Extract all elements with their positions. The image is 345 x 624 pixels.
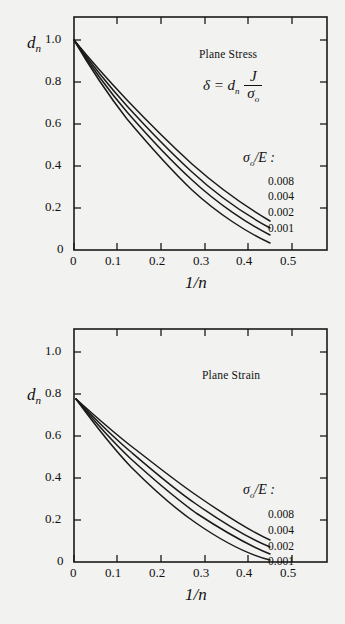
y-tick-label: 0.6 xyxy=(45,427,61,443)
curve-0.001 xyxy=(76,399,270,560)
x-tick-label: 0 xyxy=(70,565,77,581)
formula-delta: δ = dn J σo xyxy=(203,69,263,104)
y-tick-label: 0.2 xyxy=(45,199,61,215)
legend-item: 0.008 xyxy=(268,175,294,187)
x-tick-label: 0.3 xyxy=(193,253,209,269)
legend-item: 0.001 xyxy=(268,222,294,234)
x-tick-label: 0.5 xyxy=(280,253,296,269)
y-tick-label: 0 xyxy=(57,241,64,257)
y-tick-label: 0.8 xyxy=(45,385,61,401)
legend-title: σo/E : xyxy=(243,150,275,168)
formula-denominator: σo xyxy=(244,85,262,104)
panel-title: Plane Strain xyxy=(202,369,260,381)
legend-title: σo/E : xyxy=(243,482,275,500)
legend-item: 0.004 xyxy=(268,190,294,202)
formula-equals: = xyxy=(214,77,224,93)
x-axis-label: 1/n xyxy=(185,273,207,293)
x-tick-label: 0.5 xyxy=(280,565,296,581)
x-tick-label: 0.2 xyxy=(149,565,165,581)
y-tick-label: 1.0 xyxy=(45,31,61,47)
formula-fraction: J σo xyxy=(244,69,262,104)
y-tick-label: 0.4 xyxy=(45,469,61,485)
curve-0.008 xyxy=(74,40,270,221)
y-tick-label: 1.0 xyxy=(45,343,61,359)
panel-title: Plane Stress xyxy=(199,48,257,60)
x-axis-label: 1/n xyxy=(185,585,207,605)
x-tick-label: 0.4 xyxy=(236,565,252,581)
y-axis-label: dn xyxy=(27,33,41,54)
x-tick-label: 0.1 xyxy=(105,565,121,581)
legend-item: 0.002 xyxy=(268,206,294,218)
chart-plane-stress: dn 1.0 0.8 0.6 0.4 0.2 0 0 0.1 0.2 0.3 0… xyxy=(0,0,345,312)
formula-lhs: δ xyxy=(203,77,210,93)
y-tick-label: 0.2 xyxy=(45,511,61,527)
x-tick-label: 0.2 xyxy=(149,253,165,269)
x-tick-label: 0.4 xyxy=(236,253,252,269)
curve-group xyxy=(76,399,270,560)
formula-numerator: J xyxy=(244,69,262,85)
x-tick-label: 0 xyxy=(70,253,77,269)
y-tick-label: 0.4 xyxy=(45,157,61,173)
legend-item: 0.008 xyxy=(268,508,294,520)
chart-plane-strain: dn 1.0 0.8 0.6 0.4 0.2 0 0 0.1 0.2 0.3 0… xyxy=(0,312,345,624)
formula-coef: dn xyxy=(228,77,240,93)
curve-0.008 xyxy=(76,399,270,540)
x-tick-label: 0.1 xyxy=(105,253,121,269)
y-axis-label: dn xyxy=(27,385,41,406)
legend-item: 0.004 xyxy=(268,524,294,536)
curve-0.002 xyxy=(76,399,270,554)
y-tick-label: 0.6 xyxy=(45,115,61,131)
x-tick-label: 0.3 xyxy=(193,565,209,581)
legend-item: 0.002 xyxy=(268,540,294,552)
y-tick-label: 0 xyxy=(57,553,64,569)
y-tick-label: 0.8 xyxy=(45,73,61,89)
legend-item: 0.001 xyxy=(268,555,294,567)
